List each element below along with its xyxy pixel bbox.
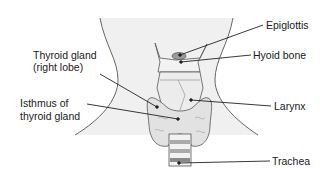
thyroid-diagram: Epiglottis Hyoid bone Thyroid gland (rig… bbox=[0, 0, 333, 180]
label-thyroid-gland: Thyroid gland bbox=[33, 49, 97, 61]
label-hyoid-bone: Hyoid bone bbox=[253, 49, 306, 61]
label-isthmus: Isthmus of bbox=[20, 97, 68, 109]
label-epiglottis: Epiglottis bbox=[266, 19, 309, 31]
label-thyroid-right-lobe: (right lobe) bbox=[33, 61, 83, 73]
label-trachea: Trachea bbox=[272, 155, 310, 167]
label-larynx: Larynx bbox=[274, 100, 306, 112]
label-isthmus-thyroid: thyroid gland bbox=[20, 110, 80, 122]
